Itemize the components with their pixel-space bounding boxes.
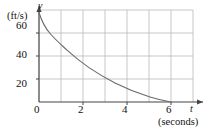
horizontal-gridlines bbox=[39, 10, 193, 79]
x-axis-unit-label: (seconds) bbox=[158, 117, 198, 128]
x-tick-label-2: 2 bbox=[78, 104, 84, 115]
plot-canvas bbox=[0, 0, 216, 131]
y-tick-label-40: 40 bbox=[16, 49, 27, 60]
velocity-time-graph-figure: v (ft/s) t (seconds) 60 40 20 0 2 4 6 bbox=[0, 0, 216, 131]
x-axis-name-label: t bbox=[190, 104, 193, 114]
x-tick-label-4: 4 bbox=[122, 104, 128, 115]
x-tick-label-0: 0 bbox=[34, 104, 40, 115]
x-axis-arrowhead bbox=[197, 99, 203, 104]
y-tick-label-20: 20 bbox=[16, 78, 27, 89]
y-axis-name-label: v bbox=[38, 1, 42, 11]
y-tick-label-60: 60 bbox=[16, 20, 27, 31]
x-tick-label-6: 6 bbox=[166, 104, 172, 115]
